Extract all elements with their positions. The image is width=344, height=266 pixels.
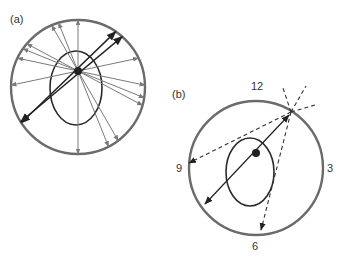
panel-a-label: (a) <box>10 13 23 25</box>
panel-b-label: (b) <box>172 88 185 100</box>
clock-label-3: 3 <box>327 162 333 174</box>
dashed-ext-3 <box>291 105 315 112</box>
focus-dot-b <box>252 149 260 157</box>
dashed-ext-2 <box>291 86 306 112</box>
clock-label-9: 9 <box>176 162 182 174</box>
ray-a-1 <box>59 23 109 147</box>
panel-b: (b) 12 3 6 9 <box>172 80 333 252</box>
panel-a: (a) <box>10 13 145 154</box>
ellipse-b <box>226 138 274 206</box>
outer-circle-b <box>189 101 323 235</box>
dark-ray-a-1 <box>21 37 122 122</box>
clock-label-12: 12 <box>251 80 263 92</box>
dashed-ray-to-9 <box>189 112 291 163</box>
dashed-ray-to-6 <box>261 112 291 230</box>
ray-a-2 <box>23 49 144 98</box>
figure: (a) (b) 12 3 6 9 <box>0 0 344 266</box>
clock-label-6: 6 <box>252 240 258 252</box>
rays-b <box>189 86 315 230</box>
solid-arrow-b <box>205 115 289 204</box>
focus-dot-a <box>74 67 82 75</box>
